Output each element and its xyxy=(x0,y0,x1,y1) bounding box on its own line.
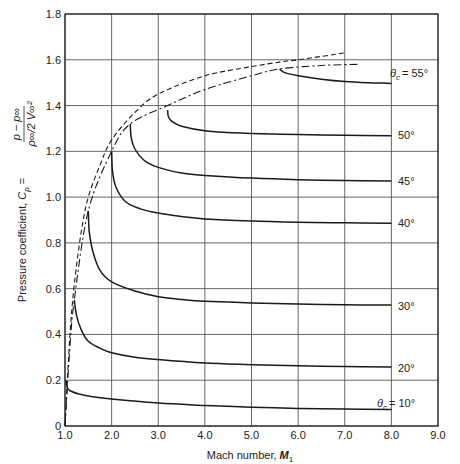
y-tick-label: 0.4 xyxy=(46,328,61,340)
x-axis-ticks: 1.02.03.04.05.06.07.08.09.0 xyxy=(57,429,445,441)
x-tick-label: 1.0 xyxy=(57,429,72,441)
curve-20- xyxy=(74,300,391,367)
x-tick-label: 3.0 xyxy=(151,429,166,441)
data-curves xyxy=(65,53,391,426)
label-20: 20° xyxy=(398,362,415,374)
x-tick-label: 8.0 xyxy=(384,429,399,441)
label-10: θc= 10° xyxy=(377,397,415,412)
y-axis-label: Pressure coefficient, Cp = p − p∞ ρ∞/2 V… xyxy=(10,101,37,302)
y-tick-label: 1.0 xyxy=(46,191,61,203)
y-tick-label: 1.8 xyxy=(46,8,61,20)
y-tick-label: 0.6 xyxy=(46,283,61,295)
curve--c-55- xyxy=(280,69,392,84)
y-label-frac-den: ρ∞/2 V∞² xyxy=(25,101,37,148)
curve-45- xyxy=(130,124,391,181)
y-axis-ticks: 00.20.40.60.81.01.21.41.61.8 xyxy=(46,8,61,432)
curve--c-10- xyxy=(66,380,392,409)
x-tick-label: 9.0 xyxy=(430,429,445,441)
curve-labels: θc= 55° 50° 45° 40° 30° 20° θc= 10° xyxy=(377,67,428,412)
label-45: 45° xyxy=(398,175,415,187)
label-30: 30° xyxy=(398,300,415,312)
y-tick-label: 1.6 xyxy=(46,54,61,66)
y-tick-label: 1.4 xyxy=(46,100,61,112)
x-axis-label: Mach number, M1 xyxy=(207,449,294,464)
y-label-frac-num: p − p∞ xyxy=(10,108,22,142)
x-tick-label: 4.0 xyxy=(197,429,212,441)
y-tick-label: 0.8 xyxy=(46,237,61,249)
x-tick-label: 6.0 xyxy=(290,429,305,441)
pressure-coefficient-chart: 00.20.40.60.81.01.21.41.61.8 1.02.03.04.… xyxy=(0,0,460,464)
curve-30- xyxy=(88,211,391,305)
label-50: 50° xyxy=(398,129,415,141)
y-tick-label: 0.2 xyxy=(46,374,61,386)
x-tick-label: 2.0 xyxy=(104,429,119,441)
svg-text:Pressure coefficient, Cp =: Pressure coefficient, Cp = xyxy=(16,178,31,302)
y-tick-label: 1.2 xyxy=(46,145,61,157)
x-tick-label: 7.0 xyxy=(337,429,352,441)
curve-50- xyxy=(168,110,392,136)
x-tick-label: 5.0 xyxy=(244,429,259,441)
curve-dash-dot-boundary xyxy=(65,64,359,426)
label-40: 40° xyxy=(398,217,415,229)
label-55: θc= 55° xyxy=(390,67,428,82)
